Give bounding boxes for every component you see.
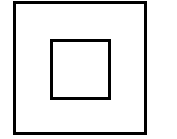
inner-square: [50, 39, 111, 100]
